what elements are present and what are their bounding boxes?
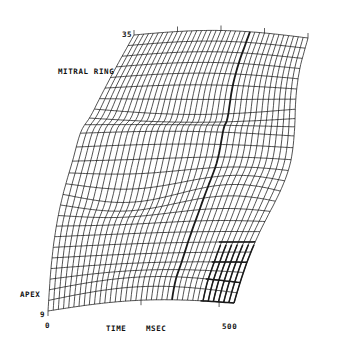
level-bottom-label: 9 <box>40 311 45 319</box>
time-start-label: 0 <box>45 322 50 330</box>
level-top-label: 35 <box>122 31 132 39</box>
time-end-label: 500 <box>222 323 237 331</box>
wall-motion-surface-figure: 35 MITRAL RING APEX 9 0 TIME MSEC 500 <box>0 0 343 356</box>
mitral-ring-label: MITRAL RING <box>58 68 114 76</box>
apex-label: APEX <box>20 291 40 299</box>
wireframe-surface <box>0 0 343 356</box>
time-unit-label: MSEC <box>146 325 166 333</box>
time-axis-label: TIME <box>106 325 126 333</box>
